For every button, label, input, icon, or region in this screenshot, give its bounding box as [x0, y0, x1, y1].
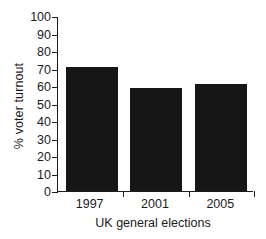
y-axis-tick-mark	[52, 35, 58, 36]
y-axis-tick-mark	[52, 52, 58, 53]
x-axis-tick-label: 2001	[122, 196, 187, 212]
bars-layer	[58, 17, 253, 191]
x-axis-tick-label: 1997	[57, 196, 122, 212]
y-axis-tick-label: 80	[22, 45, 51, 59]
y-axis-tick-label: 100	[22, 10, 51, 24]
y-axis-tick-label: 60	[22, 80, 51, 94]
y-axis-tick-mark	[52, 122, 58, 123]
x-axis-end-tick-mark	[254, 191, 255, 197]
y-axis-tick-mark	[52, 192, 58, 193]
y-axis-tick-label: 40	[22, 115, 51, 129]
y-axis-tick-mark	[52, 87, 58, 88]
y-axis-tick-label: 90	[22, 28, 51, 42]
y-axis-tick-mark	[52, 140, 58, 141]
y-axis-tick-mark	[52, 175, 58, 176]
y-axis-tick-mark	[52, 105, 58, 106]
y-axis-tick-label: 0	[22, 185, 51, 199]
plot-area	[57, 17, 253, 192]
y-axis-tick-label: 30	[22, 133, 51, 147]
bar	[195, 84, 247, 191]
bar	[66, 67, 118, 191]
x-axis-tick-labels: 199720012005	[57, 196, 253, 214]
bar	[130, 88, 182, 191]
y-axis-tick-label: 10	[22, 168, 51, 182]
x-axis-title: UK general elections	[40, 215, 266, 231]
y-axis-tick-label: 70	[22, 63, 51, 77]
y-axis-tick-mark	[52, 157, 58, 158]
y-axis-tick-labels: 0102030405060708090100	[22, 10, 51, 200]
y-axis-tick-label: 50	[22, 98, 51, 112]
bar-chart-figure: % voter turnout 0102030405060708090100 1…	[0, 0, 266, 239]
y-axis-tick-label: 20	[22, 150, 51, 164]
x-axis-tick-label: 2005	[188, 196, 253, 212]
y-axis-tick-mark	[52, 70, 58, 71]
